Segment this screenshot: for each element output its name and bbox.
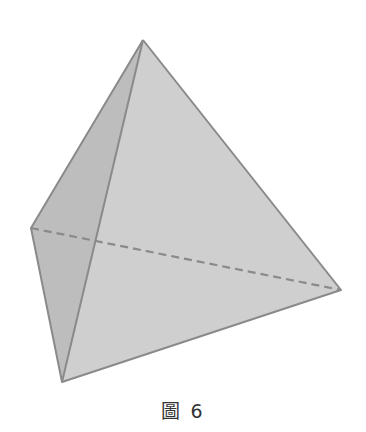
front-face [62, 40, 341, 382]
figure-caption: 圖 6 [0, 396, 366, 423]
tetrahedron-figure [0, 0, 366, 432]
